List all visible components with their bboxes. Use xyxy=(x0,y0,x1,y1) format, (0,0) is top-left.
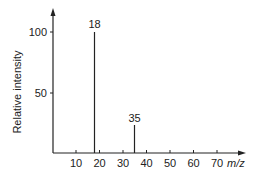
x-tick-label-30: 30 xyxy=(117,157,129,169)
peak-label-35: 35 xyxy=(128,112,140,124)
x-tick-label-70: 70 xyxy=(211,157,223,169)
x-axis-arrow-icon xyxy=(238,151,246,156)
y-tick-label-50: 50 xyxy=(35,87,47,99)
y-tick-label-100: 100 xyxy=(29,26,47,38)
x-tick-label-40: 40 xyxy=(140,157,152,169)
x-tick-label-20: 20 xyxy=(93,157,105,169)
y-axis-arrow-icon xyxy=(51,8,56,16)
x-tick-label-10: 10 xyxy=(70,157,82,169)
mass-spectrum-chart: 100 50 Relative intensity 10 20 30 40 50… xyxy=(0,0,258,178)
x-tick-label-50: 50 xyxy=(164,157,176,169)
y-axis-label: Relative intensity xyxy=(11,50,23,134)
peak-label-18: 18 xyxy=(88,18,100,30)
x-axis-label: m/z xyxy=(227,157,245,169)
x-tick-label-60: 60 xyxy=(187,157,199,169)
